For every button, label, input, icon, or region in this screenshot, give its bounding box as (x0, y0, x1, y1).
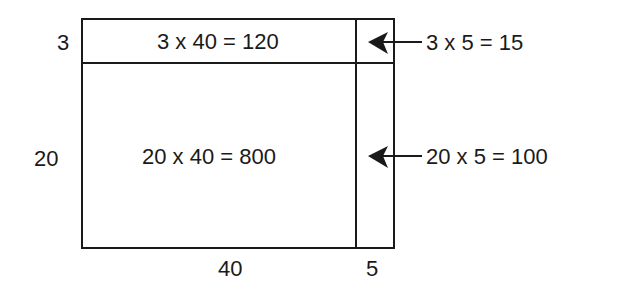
col-label-left: 40 (218, 258, 242, 280)
row-label-bottom: 20 (34, 148, 58, 170)
cell-top-left-text: 3 x 40 = 120 (157, 31, 279, 53)
cell-bottom-left-text: 20 x 40 = 800 (142, 146, 276, 168)
callout-bottom-right: 20 x 5 = 100 (426, 146, 548, 168)
callout-top-right: 3 x 5 = 15 (426, 32, 523, 54)
row-label-top: 3 (57, 32, 69, 54)
col-label-right: 5 (366, 258, 378, 280)
